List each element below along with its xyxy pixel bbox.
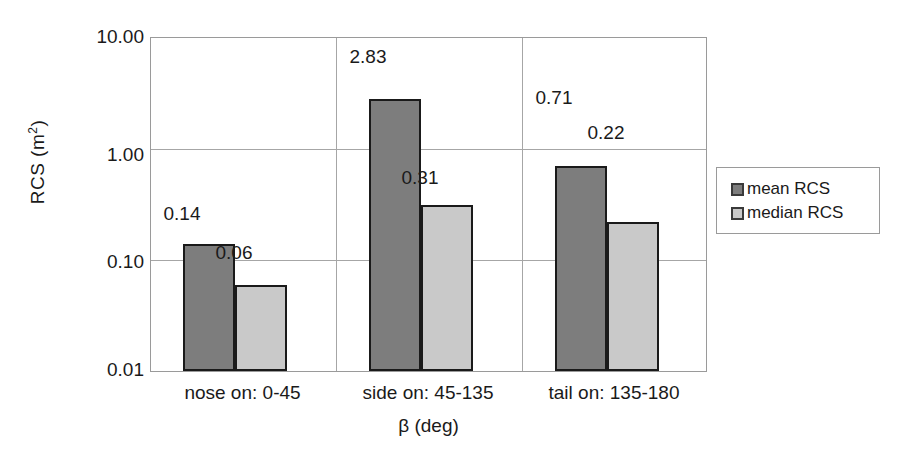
y-axis-title-base: RCS (m — [27, 134, 48, 205]
bar-median-nose-on[interactable] — [235, 285, 287, 371]
legend-swatch-median-icon — [731, 207, 744, 220]
category-separator-1 — [336, 38, 337, 371]
plot-area — [150, 37, 707, 372]
y-axis-tick-labels: 10.00 1.00 0.10 0.01 — [52, 0, 144, 457]
value-label-median-tail-on: 0.22 — [570, 122, 642, 144]
legend-item-median-rcs[interactable]: median RCS — [731, 201, 879, 225]
y-tick-label-0-10: 0.10 — [60, 251, 144, 273]
bar-median-side-on[interactable] — [421, 205, 473, 371]
legend-item-mean-rcs[interactable]: mean RCS — [731, 177, 879, 201]
value-label-mean-nose-on: 0.14 — [146, 203, 218, 225]
value-label-mean-side-on: 2.83 — [332, 46, 404, 68]
bar-mean-side-on[interactable] — [369, 99, 421, 371]
x-axis-title: β (deg) — [150, 415, 707, 437]
value-label-median-side-on: 0.31 — [384, 167, 456, 189]
y-axis-title-close: ) — [27, 120, 48, 127]
legend-label-median-rcs: median RCS — [747, 203, 843, 223]
gridline-1-00 — [151, 149, 706, 150]
y-tick-label-10: 10.00 — [60, 26, 144, 48]
legend-label-mean-rcs: mean RCS — [747, 179, 830, 199]
rcs-bar-chart: RCS (m2) 10.00 1.00 0.10 0.01 0.14 0.06 … — [0, 0, 910, 457]
x-category-label-side-on: side on: 45-135 — [335, 382, 521, 404]
legend: mean RCS median RCS — [716, 167, 880, 234]
x-category-label-nose-on: nose on: 0-45 — [150, 382, 335, 404]
y-tick-label-1: 1.00 — [60, 144, 144, 166]
value-label-mean-tail-on: 0.71 — [518, 87, 590, 109]
x-category-label-tail-on: tail on: 135-180 — [521, 382, 707, 404]
bar-median-tail-on[interactable] — [607, 222, 659, 371]
value-label-median-nose-on: 0.06 — [198, 242, 270, 264]
y-axis-title: RCS (m2) — [27, 62, 49, 262]
y-axis-title-exponent: 2 — [26, 127, 40, 134]
y-tick-label-0-01: 0.01 — [60, 359, 144, 381]
bar-mean-tail-on[interactable] — [555, 166, 607, 371]
legend-swatch-mean-icon — [731, 183, 744, 196]
